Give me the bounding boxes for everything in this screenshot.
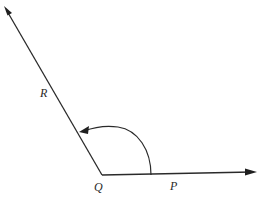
angle-diagram: R Q P: [0, 0, 263, 199]
ray-qr: [4, 6, 102, 175]
label-p: P: [169, 179, 178, 193]
label-q: Q: [94, 180, 103, 194]
ray-qp: [102, 169, 257, 176]
arrowhead-r-icon: [4, 6, 12, 16]
label-r: R: [39, 86, 48, 100]
angle-arc: [79, 126, 151, 175]
arrowhead-p-icon: [245, 169, 257, 176]
arc-arrowhead-icon: [79, 126, 89, 134]
